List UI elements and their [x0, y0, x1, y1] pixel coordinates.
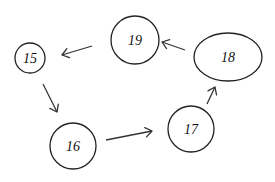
edge-line [106, 131, 152, 140]
edge-17-to-18 [207, 87, 216, 104]
graph-diagram: 1519181617 [0, 0, 275, 182]
edge-15-to-16 [43, 84, 58, 112]
node-18: 18 [194, 33, 262, 81]
edge-19-to-15 [62, 46, 92, 58]
edge-line [62, 46, 92, 55]
node-label: 18 [221, 50, 235, 65]
node-16: 16 [50, 123, 96, 169]
nodes-layer: 1519181617 [15, 16, 262, 169]
node-19: 19 [111, 16, 159, 64]
node-15: 15 [15, 43, 45, 73]
node-17: 17 [168, 106, 214, 152]
edge-18-to-19 [162, 40, 185, 50]
node-label: 19 [128, 33, 142, 48]
node-label: 16 [66, 139, 80, 154]
node-label: 17 [184, 122, 199, 137]
edge-16-to-17 [106, 128, 152, 140]
node-label: 15 [23, 51, 37, 66]
